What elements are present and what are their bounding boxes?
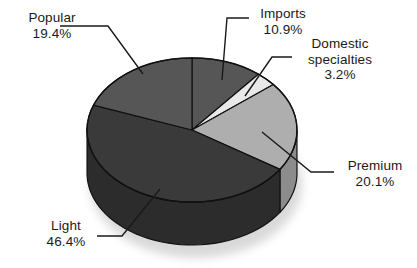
slice-label-popular-name: Popular: [10, 10, 94, 26]
slice-label-light-name: Light: [34, 218, 98, 234]
slice-label-popular-value: 19.4%: [10, 26, 94, 42]
slice-label-domestic-specialties: Domestic specialties 3.2%: [294, 36, 386, 83]
pie-top-faces: [87, 58, 297, 202]
slice-label-domestic-value: 3.2%: [294, 67, 386, 83]
slice-label-domestic-line2: specialties: [294, 52, 386, 68]
slice-label-premium: Premium 20.1%: [336, 158, 414, 189]
slice-label-light: Light 46.4%: [34, 218, 98, 249]
slice-label-premium-name: Premium: [336, 158, 414, 174]
slice-label-imports: Imports 10.9%: [248, 6, 318, 37]
slice-label-domestic-line1: Domestic: [294, 36, 386, 52]
slice-label-imports-value: 10.9%: [248, 22, 318, 38]
slice-label-popular: Popular 19.4%: [10, 10, 94, 41]
slice-label-light-value: 46.4%: [34, 234, 98, 250]
pie-chart-figure: Popular 19.4% Imports 10.9% Domestic spe…: [0, 0, 417, 268]
slice-label-imports-name: Imports: [248, 6, 318, 22]
slice-label-premium-value: 20.1%: [336, 174, 414, 190]
